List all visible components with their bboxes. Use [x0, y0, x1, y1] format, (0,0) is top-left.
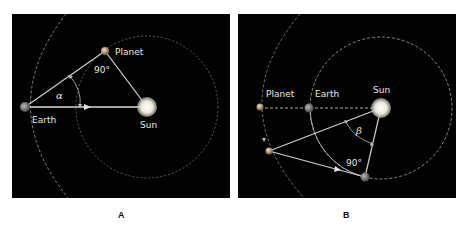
earth-orbit [30, 14, 68, 198]
sun-icon [371, 98, 391, 118]
earth-icon [20, 102, 30, 112]
earth-quadrature-icon [361, 173, 370, 182]
planet-label: Planet [115, 48, 143, 57]
right-angle-label: 90° [346, 159, 362, 168]
sun-label: Sun [140, 121, 157, 130]
diagram-b-drawing [238, 14, 456, 198]
planet-label: Planet [266, 90, 294, 99]
earth-planet-line [25, 51, 105, 107]
panel-a-caption: A [118, 210, 125, 220]
diagram-panel-b: Planet Earth Sun β 90° [238, 14, 456, 198]
earth-opposition-icon [305, 104, 314, 113]
planet-opposition-icon [257, 104, 264, 111]
alpha-angle-arc [70, 76, 80, 107]
planet-quadrature-icon [266, 148, 273, 155]
planet-sun-line [105, 51, 147, 107]
planet-orbit [262, 14, 304, 198]
arrow-head-icon [334, 166, 341, 172]
diagram-a-drawing [12, 14, 230, 198]
planet-icon [101, 47, 109, 55]
planet-sun-line [269, 108, 381, 151]
sun-label: Sun [373, 86, 390, 95]
right-angle-label: 90° [94, 66, 110, 75]
sun-earth-line [365, 108, 381, 177]
arrow-head-icon [84, 104, 91, 110]
diagram-panel-a: Planet 90° α Earth Sun [12, 14, 230, 198]
beta-angle-label: β [356, 126, 362, 136]
earth-label: Earth [315, 90, 339, 99]
alpha-angle-label: α [56, 91, 63, 101]
earth-label: Earth [32, 116, 56, 125]
panel-b-caption: B [343, 210, 350, 220]
sun-icon [137, 97, 157, 117]
